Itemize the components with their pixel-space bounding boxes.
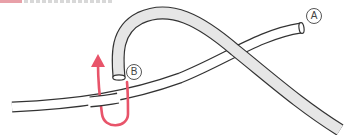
tube-diagram bbox=[0, 0, 354, 135]
label-a: A bbox=[306, 8, 322, 24]
label-b: B bbox=[126, 64, 142, 80]
thick-tube bbox=[113, 13, 340, 130]
thin-tube-overlap bbox=[88, 98, 120, 102]
